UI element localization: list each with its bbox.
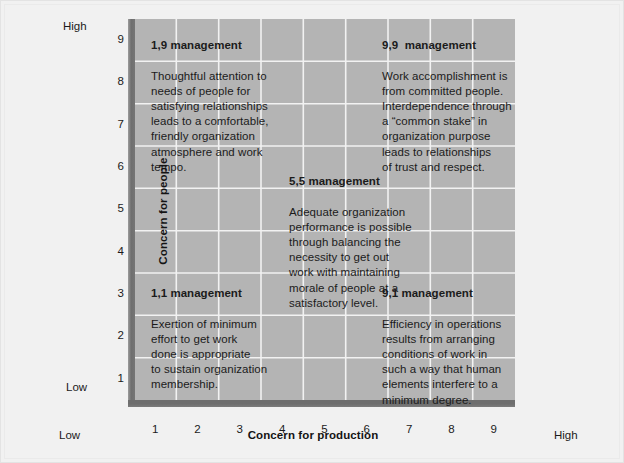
y-tick-9: 9 bbox=[102, 33, 124, 45]
y-tick-2: 2 bbox=[102, 329, 124, 341]
grid-cell-1-1: 1,1 management Exertion of minimum effor… bbox=[151, 271, 331, 408]
grid-cell-9-1-text: Efficiency in operations results from ar… bbox=[382, 317, 572, 408]
y-tick-7: 7 bbox=[102, 118, 124, 130]
y-axis-high-label: High bbox=[63, 20, 87, 32]
y-tick-3: 3 bbox=[102, 287, 124, 299]
grid-cell-9-1: 9,1 management Efficiency in operations … bbox=[382, 271, 572, 423]
grid-cell-5-5-heading: 5,5 management bbox=[289, 174, 469, 189]
y-tick-4: 4 bbox=[102, 245, 124, 257]
managerial-grid-figure: 1,9 management Thoughtful attention to n… bbox=[0, 0, 624, 463]
y-tick-1: 1 bbox=[102, 372, 124, 384]
y-tick-6: 6 bbox=[102, 160, 124, 172]
y-axis-bar bbox=[128, 19, 135, 406]
y-axis-title: Concern for people bbox=[157, 116, 169, 306]
y-tick-8: 8 bbox=[102, 75, 124, 87]
grid-cell-1-1-text: Exertion of minimum effort to get work d… bbox=[151, 317, 331, 393]
y-tick-5: 5 bbox=[102, 202, 124, 214]
grid-cell-1-1-heading: 1,1 management bbox=[151, 286, 331, 301]
plot-wrap: 1,9 management Thoughtful attention to n… bbox=[134, 19, 515, 400]
y-axis-low-label: Low bbox=[66, 381, 87, 393]
grid-cell-9-9-heading: 9,9 management bbox=[382, 38, 572, 53]
grid-cell-9-1-heading: 9,1 management bbox=[382, 286, 572, 301]
x-axis-title: Concern for production bbox=[1, 429, 624, 441]
grid-cell-1-9-heading: 1,9 management bbox=[151, 38, 331, 53]
